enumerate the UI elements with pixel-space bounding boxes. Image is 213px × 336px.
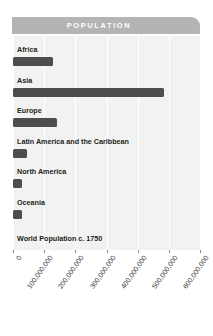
gridline bbox=[169, 36, 170, 250]
chart-caption: World Population c. 1750 bbox=[17, 234, 102, 244]
axis-tick-label: 400,000,000 bbox=[119, 254, 147, 290]
chart-header-banner: POPULATION bbox=[12, 17, 200, 34]
bar[interactable] bbox=[13, 149, 27, 158]
axis-tick-label: 300,000,000 bbox=[88, 254, 116, 290]
axis-tick-label: 600,000,000 bbox=[182, 254, 210, 290]
bar-category-label: Africa bbox=[17, 45, 37, 55]
bar[interactable] bbox=[13, 118, 57, 127]
bar[interactable] bbox=[13, 57, 53, 66]
bar-category-label: North America bbox=[17, 167, 66, 177]
axis-tick-label: 200,000,000 bbox=[57, 254, 85, 290]
page-title: POPULATION bbox=[12, 17, 186, 34]
bar[interactable] bbox=[13, 179, 22, 188]
gridline bbox=[200, 36, 201, 250]
bar-category-label: Latin America and the Caribbean bbox=[17, 137, 129, 147]
bar-category-label: Oceania bbox=[17, 198, 45, 208]
population-bar-chart-figure: POPULATION AfricaAsiaEuropeLatin America… bbox=[0, 0, 213, 336]
bar[interactable] bbox=[13, 210, 22, 219]
plot-area: AfricaAsiaEuropeLatin America and the Ca… bbox=[13, 36, 200, 250]
x-axis-tick-labels: 0100,000,000200,000,000300,000,000400,00… bbox=[0, 250, 213, 336]
axis-tick-label: 500,000,000 bbox=[150, 254, 178, 290]
axis-tick-label: 100,000,000 bbox=[26, 254, 54, 290]
gridline bbox=[138, 36, 139, 250]
bar-category-label: Asia bbox=[17, 76, 32, 86]
bar-category-label: Europe bbox=[17, 106, 42, 116]
axis-tick-label: 0 bbox=[15, 254, 23, 261]
bar[interactable] bbox=[13, 88, 164, 97]
